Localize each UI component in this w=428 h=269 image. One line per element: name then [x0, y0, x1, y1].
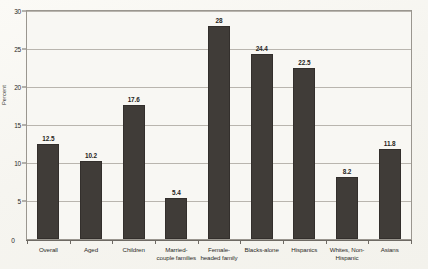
y-axis-tick-mark	[22, 87, 26, 88]
x-axis-label-line: couple families	[157, 254, 196, 262]
bar-group: 8.2	[326, 11, 369, 239]
x-axis-tick-mark	[368, 240, 369, 244]
x-axis-ticks	[27, 240, 411, 245]
bar-value-label: 24.4	[256, 45, 268, 52]
x-axis-tick-label: Whites, Non-Hispanic	[330, 246, 365, 262]
y-axis-tick-mark	[22, 163, 26, 164]
bar-group: 10.2	[70, 11, 113, 239]
x-axis-label-line: Blacks-alone	[245, 246, 279, 254]
x-axis-label-line: Overall	[39, 246, 58, 254]
x-axis-tick-label: Children	[123, 246, 145, 254]
bar-group: 5.4	[155, 11, 198, 239]
x-axis-tick-label: Married-couple families	[157, 246, 196, 262]
bar[interactable]	[37, 144, 59, 239]
x-axis-tick-mark	[198, 240, 199, 244]
x-axis-tick-label: Overall	[39, 246, 58, 254]
y-axis-tick-label: 15	[14, 122, 21, 129]
bar-group: 11.8	[368, 11, 411, 239]
bar-value-label: 11.8	[384, 140, 396, 147]
x-axis-tick-mark	[112, 240, 113, 244]
y-axis-tick-label: 25	[14, 46, 21, 53]
bar-value-label: 8.2	[343, 168, 352, 175]
x-axis-tick-mark	[326, 240, 327, 244]
bar[interactable]	[123, 105, 145, 239]
bar[interactable]	[293, 68, 315, 239]
bar-value-label: 5.4	[172, 189, 181, 196]
bars-layer: 12.510.217.65.42824.422.58.211.8	[27, 11, 411, 239]
y-axis-tick-mark	[22, 11, 26, 12]
y-axis-tick-mark	[22, 125, 26, 126]
x-axis-tick-mark	[155, 240, 156, 244]
x-axis-label-line: headed family	[200, 254, 237, 262]
bar[interactable]	[379, 149, 401, 239]
bar-value-label: 28	[216, 17, 223, 24]
x-axis-label-line: Female-	[200, 246, 237, 254]
bar-group: 22.5	[283, 11, 326, 239]
x-axis-label-line: Married-	[157, 246, 196, 254]
y-axis-tick-mark	[22, 201, 26, 202]
x-axis-tick-mark	[283, 240, 284, 244]
x-axis-label-line: Aged	[84, 246, 98, 254]
x-axis-tick-mark	[27, 240, 28, 244]
y-axis-tick-label: 20	[14, 84, 21, 91]
y-axis-ticks: 51015202530	[0, 10, 26, 240]
x-axis-tick-mark	[70, 240, 71, 244]
bar-value-label: 22.5	[298, 59, 310, 66]
x-axis-label-line: Whites, Non-	[330, 246, 365, 254]
y-axis-tick-label: 30	[14, 8, 21, 15]
y-axis-tick-label: 10	[14, 160, 21, 167]
y-axis-tick-label: 5	[18, 198, 21, 205]
y-axis-tick-mark	[22, 49, 26, 50]
bar-group: 17.6	[112, 11, 155, 239]
bar[interactable]	[165, 198, 187, 239]
x-axis-tick-label: Hispanics	[291, 246, 317, 254]
bar-group: 24.4	[240, 11, 283, 239]
bar-value-label: 10.2	[85, 152, 97, 159]
x-axis-tick-label: Asians	[381, 246, 399, 254]
x-axis-tick-label: Female-headed family	[200, 246, 237, 262]
bar-chart: 51015202530 Percent 12.510.217.65.42824.…	[0, 0, 428, 269]
bar-value-label: 17.6	[128, 96, 140, 103]
y-axis-title: Percent	[1, 85, 7, 105]
x-axis-label-line: Hispanic	[330, 254, 365, 262]
x-axis-tick-mark	[411, 240, 412, 244]
x-axis-label-line: Hispanics	[291, 246, 317, 254]
x-axis-labels: OverallAgedChildrenMarried-couple famili…	[27, 246, 411, 269]
y-axis-zero-label: 0	[11, 237, 15, 244]
bar-group: 28	[198, 11, 241, 239]
bar-group: 12.5	[27, 11, 70, 239]
bar[interactable]	[208, 26, 230, 239]
x-axis-label-line: Asians	[381, 246, 399, 254]
bar[interactable]	[336, 177, 358, 239]
x-axis-tick-mark	[240, 240, 241, 244]
x-axis-tick-label: Aged	[84, 246, 98, 254]
x-axis-tick-label: Blacks-alone	[245, 246, 279, 254]
bar[interactable]	[251, 54, 273, 239]
bar[interactable]	[80, 161, 102, 239]
x-axis-label-line: Children	[123, 246, 145, 254]
bar-value-label: 12.5	[42, 135, 54, 142]
